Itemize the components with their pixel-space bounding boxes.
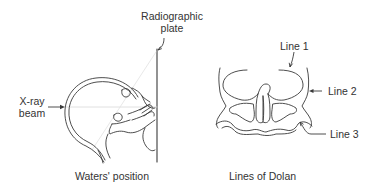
line1-label: Line 1 [280, 40, 309, 52]
frontal-ridge [132, 88, 150, 102]
line2-pointer [309, 89, 322, 93]
xray-beam-label-line1: X-ray [16, 95, 48, 107]
line3-label: Line 3 [330, 128, 359, 140]
xray-beam-label-line2: beam [16, 107, 48, 119]
nasal-roof [258, 84, 270, 94]
right-maxillary-sinus [272, 103, 297, 122]
right-orbit [268, 70, 303, 100]
radiographic-plate-label-line1: Radiographic [137, 10, 207, 22]
ear-region [114, 113, 123, 121]
waters-position-figure [65, 49, 157, 163]
dolan-lines-figure [216, 68, 312, 136]
line2-label: Line 2 [328, 85, 357, 97]
line3-pointer [300, 122, 326, 134]
xray-beam-arrow [48, 105, 65, 109]
right-lateral-wall [302, 68, 312, 128]
line1-pointer [289, 52, 294, 67]
neck-front [106, 134, 110, 158]
plate-pointer-arrow [158, 38, 164, 50]
chin [143, 128, 155, 151]
waters-position-caption: Waters' position [75, 170, 149, 182]
radiographic-plate-label: Radiographic plate [137, 10, 207, 34]
jaw-line [109, 120, 155, 134]
left-orbit [223, 70, 258, 100]
beam-ray-diagonal [92, 52, 156, 150]
mandible-teeth [132, 112, 154, 120]
infra-orbital-line [222, 126, 296, 135]
left-maxillary-sinus [229, 103, 254, 122]
skull-outer [65, 78, 138, 162]
left-lateral-wall [217, 68, 227, 128]
xray-beam-label: X-ray beam [16, 95, 48, 119]
lines-of-dolan-caption: Lines of Dolan [229, 170, 296, 182]
radiographic-plate-label-line2: plate [137, 22, 207, 34]
skull-inner [69, 82, 136, 160]
